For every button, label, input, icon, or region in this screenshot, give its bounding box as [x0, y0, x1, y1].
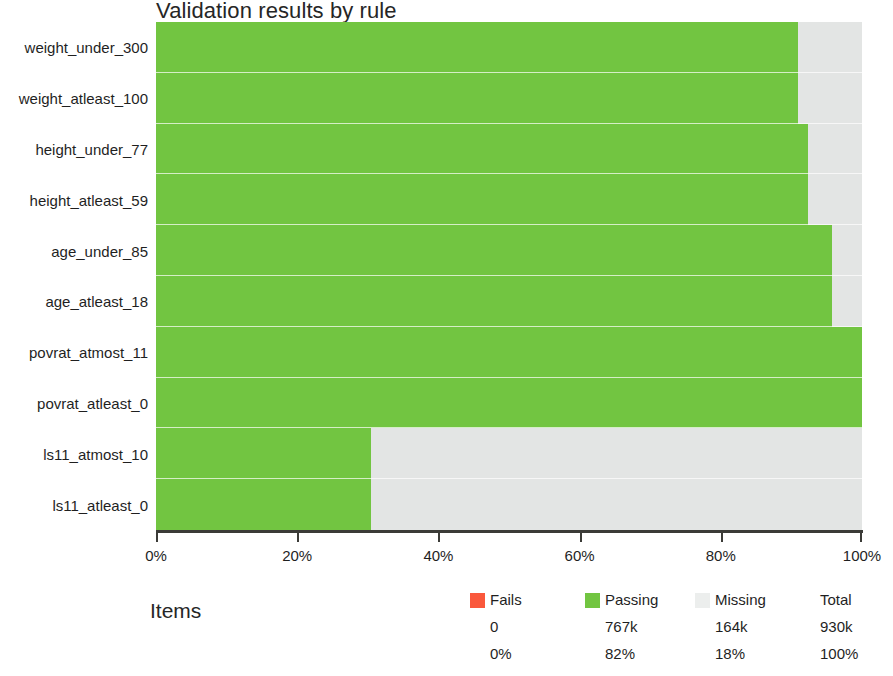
x-axis-tick-label: 20% [282, 548, 312, 564]
bar-row [156, 276, 862, 327]
bar-segment-passing [156, 479, 371, 530]
legend-header-total[interactable]: Total [800, 591, 852, 609]
legend-count-fails: 0 [490, 619, 498, 635]
y-axis-label-ls11-atmost-10: ls11_atmost_10 [0, 447, 148, 462]
y-axis-label-ls11-atleast-0: ls11_atleast_0 [0, 498, 148, 513]
legend-percent-passing: 82% [605, 646, 635, 662]
x-axis-tick-label: 60% [565, 548, 595, 564]
legend-swatch-fails-icon [470, 593, 485, 608]
legend-column-missing: Missing164k18% [695, 588, 795, 676]
legend-count-total: 930k [820, 619, 853, 635]
legend-percent-fails: 0% [490, 646, 512, 662]
bar-segment-passing [156, 428, 371, 479]
legend-column-fails: Fails00% [470, 588, 570, 676]
y-axis-label-age-under-85: age_under_85 [0, 244, 148, 259]
y-axis-label-weight-under-300: weight_under_300 [0, 40, 148, 55]
bar-row [156, 428, 862, 479]
x-axis-tick [438, 533, 440, 542]
legend-swatch-placeholder-icon [800, 593, 815, 608]
x-axis-title: Items [150, 600, 201, 622]
x-axis-tick-label: 80% [706, 548, 736, 564]
bar-row [156, 378, 862, 429]
y-axis-label-height-under-77: height_under_77 [0, 142, 148, 157]
y-axis-category-labels: weight_under_300weight_atleast_100height… [0, 22, 148, 530]
bar-segment-passing [156, 225, 832, 276]
legend-label-passing: Passing [605, 592, 658, 608]
bar-segment-passing [156, 327, 862, 378]
x-axis-tick [580, 533, 582, 542]
bar-segment-passing [156, 276, 832, 327]
legend-column-total: Total930k100% [800, 588, 893, 676]
x-axis-tick [721, 533, 723, 542]
x-axis-line [156, 530, 863, 533]
legend-label-total: Total [820, 592, 852, 608]
x-axis-tick [860, 533, 862, 542]
bar-segment-passing [156, 22, 798, 73]
legend-column-passing: Passing767k82% [585, 588, 685, 676]
bar-row [156, 174, 862, 225]
y-axis-label-weight-atleast-100: weight_atleast_100 [0, 91, 148, 106]
legend-header-missing[interactable]: Missing [695, 591, 766, 609]
bar-row [156, 327, 862, 378]
x-axis-tick-label: 40% [423, 548, 453, 564]
bar-segment-passing [156, 73, 798, 124]
plot-area [156, 22, 862, 530]
bar-row [156, 73, 862, 124]
bar-segment-passing [156, 378, 862, 429]
legend-percent-missing: 18% [715, 646, 745, 662]
bar-segment-passing [156, 174, 808, 225]
legend-summary-table: Fails00%Passing767k82%Missing164k18%Tota… [470, 588, 870, 676]
bar-segment-passing [156, 124, 808, 175]
legend-swatch-missing-icon [695, 593, 710, 608]
x-axis-tick-label: 100% [843, 548, 881, 564]
y-axis-label-height-atleast-59: height_atleast_59 [0, 193, 148, 208]
chart-title: Validation results by rule [156, 0, 397, 22]
bar-row [156, 479, 862, 530]
y-axis-label-povrat-atmost-11: povrat_atmost_11 [0, 345, 148, 360]
legend-swatch-passing-icon [585, 593, 600, 608]
bar-row [156, 22, 862, 73]
y-axis-label-povrat-atleast-0: povrat_atleast_0 [0, 396, 148, 411]
bar-row [156, 225, 862, 276]
validation-results-chart: Validation results by rule weight_under_… [0, 0, 893, 676]
legend-label-fails: Fails [490, 592, 522, 608]
legend-percent-total: 100% [820, 646, 858, 662]
x-axis-tick [297, 533, 299, 542]
legend-count-passing: 767k [605, 619, 638, 635]
legend-header-passing[interactable]: Passing [585, 591, 658, 609]
x-axis-tick [156, 533, 158, 542]
legend-header-fails[interactable]: Fails [470, 591, 522, 609]
x-axis-tick-label: 0% [145, 548, 167, 564]
legend-count-missing: 164k [715, 619, 748, 635]
y-axis-label-age-atleast-18: age_atleast_18 [0, 294, 148, 309]
bar-row [156, 124, 862, 175]
legend-label-missing: Missing [715, 592, 766, 608]
